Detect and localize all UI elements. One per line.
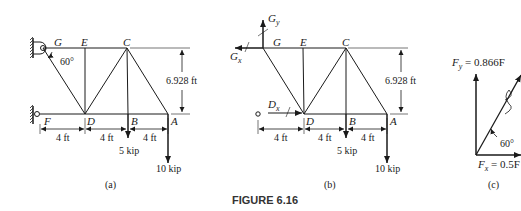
node-e-label: E [80, 36, 88, 48]
angle-c-label: 60° [500, 138, 514, 149]
node-d-label-b: D [305, 115, 314, 127]
fx-label: Fx = 0.5F [477, 158, 520, 173]
panel-c-components [476, 74, 521, 155]
node-b-label: B [131, 115, 138, 127]
panel-b-labels: Gy Gx Dx G E C D B A 6.928 ft 4 ft 4 ft … [230, 12, 416, 191]
span-ba: 4 ft [143, 132, 157, 143]
reaction-gx-label: Gx [230, 50, 242, 65]
reaction-dx-label: Dx [267, 98, 280, 113]
height-dimension-b: 6.928 ft [385, 75, 416, 86]
node-e-label-b: E [299, 36, 307, 48]
panel-c-labels: Fy = 0.866F 60° Fx = 0.5F (c) [451, 56, 520, 191]
load-a: 10 kip [156, 163, 181, 174]
node-c-label-b: C [342, 36, 350, 48]
load-a-b: 10 kip [375, 163, 400, 174]
span-fd: 4 ft [56, 132, 70, 143]
node-a-label-b: A [389, 115, 397, 127]
node-g-label: G [54, 36, 62, 48]
load-b: 5 kip [119, 145, 139, 156]
span-3-b: 4 ft [361, 132, 375, 143]
span-db: 4 ft [100, 132, 114, 143]
reaction-gy-label: Gy [268, 12, 280, 27]
span-1-b: 4 ft [274, 132, 288, 143]
node-a-label: A [170, 115, 178, 127]
span-2-b: 4 ft [318, 132, 332, 143]
node-f-label: F [43, 115, 51, 127]
panel-c-label: (c) [488, 179, 499, 191]
angle-label: 60° [60, 56, 74, 67]
load-b-b: 5 kip [337, 145, 357, 156]
fy-label: Fy = 0.866F [451, 56, 505, 71]
height-dimension: 6.928 ft [166, 75, 197, 86]
figure-6-16: G E C F D B A 60° 6.928 ft 4 ft 4 ft 4 f… [0, 0, 521, 211]
node-c-label: C [123, 36, 131, 48]
panel-b-label: (b) [324, 179, 336, 191]
panel-a-label: (a) [105, 179, 116, 191]
node-b-label-b: B [349, 115, 356, 127]
node-d-label: D [86, 115, 95, 127]
panel-a-truss [30, 37, 190, 163]
figure-caption: FIGURE 6.16 [232, 194, 298, 206]
node-g-label-b: G [273, 36, 281, 48]
